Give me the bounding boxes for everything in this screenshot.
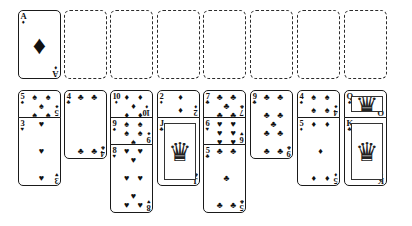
card-index-top-left-suit-icon: ♦ xyxy=(115,100,118,105)
tableau-card-col8-pos1[interactable]: Q♠Q♠♛ xyxy=(344,90,387,118)
card-index-top-left-suit-icon: ♣ xyxy=(160,127,164,132)
pip-heart-icon: ♥ xyxy=(131,156,136,165)
tableau-card-col5-pos2[interactable]: 6♥6♥♥♥♥♥♥♥ xyxy=(203,117,246,145)
tableau-card-col5-pos1[interactable]: 7♣7♣♣♣♣♣♣♣♣ xyxy=(203,90,246,118)
empty-foundation-slot-2[interactable] xyxy=(64,10,107,79)
pip-club-icon: ♣ xyxy=(230,201,236,210)
pip-club-icon: ♣ xyxy=(217,93,223,102)
card-index-bottom-right-suit-icon: ♠ xyxy=(55,104,58,109)
card-index-bottom-right: 9♣ xyxy=(287,145,291,158)
pip-heart-icon: ♥ xyxy=(131,192,136,201)
pip-heart-icon: ♥ xyxy=(124,147,129,156)
empty-foundation-slot-6[interactable] xyxy=(250,10,293,79)
tableau-card-col1-pos2[interactable]: 3♥3♥♥♥♥ xyxy=(18,117,61,186)
card-index-top-left-suit-icon: ♣ xyxy=(67,100,71,105)
tableau-card-col8-pos2[interactable]: K♣K♣♛ xyxy=(344,117,387,186)
card-index-top-left-suit-icon: ♥ xyxy=(113,154,117,159)
card-pip-field: ♣♣♣♣ xyxy=(74,93,101,156)
pip-heart-icon: ♥ xyxy=(124,174,129,183)
card-index-bottom-right: 5♠ xyxy=(55,104,59,117)
pip-heart-icon: ♥ xyxy=(39,120,44,129)
tableau-card-col4-pos1[interactable]: 2♦2♦♦♦ xyxy=(157,90,200,118)
tableau-card-col3-pos2[interactable]: 9♠9♠♠♠♠♠♠♠♠♠♠ xyxy=(110,117,153,145)
pip-club-icon: ♣ xyxy=(217,147,223,156)
pip-club-icon: ♣ xyxy=(277,93,283,102)
card-index-top-left-suit-icon: ♠ xyxy=(300,100,303,105)
card-index-top-left-suit-icon: ♣ xyxy=(206,154,210,159)
pip-diamond-icon: ♦ xyxy=(138,93,143,102)
card-index-top-left-suit-icon: ♦ xyxy=(300,127,303,132)
tableau-card-col3-pos3[interactable]: 8♥8♥♥♥♥♥♥♥♥♥ xyxy=(110,144,153,213)
pip-spade-icon: ♠ xyxy=(311,93,316,102)
pip-spade-icon: ♠ xyxy=(124,129,129,138)
pip-spade-icon: ♠ xyxy=(311,106,316,115)
pip-club-icon: ♣ xyxy=(264,129,270,138)
card-pip-field: ♦♦ xyxy=(167,93,194,115)
card-index-top-left: 3♥ xyxy=(21,119,25,132)
card-index-top-left-suit-icon: ♠ xyxy=(113,127,116,132)
empty-foundation-slot-3[interactable] xyxy=(110,10,153,79)
card-index-bottom-right-suit-icon: ♥ xyxy=(147,199,151,204)
empty-foundation-slot-4[interactable] xyxy=(157,10,200,79)
pip-club-icon: ♣ xyxy=(264,111,270,120)
pip-heart-icon: ♥ xyxy=(138,147,143,156)
pip-club-icon: ♣ xyxy=(271,120,277,129)
pip-club-icon: ♣ xyxy=(78,93,84,102)
card-index-top-left: 6♥ xyxy=(206,119,210,132)
tableau-card-col6-pos1[interactable]: 9♣9♣♣♣♣♣♣♣♣♣♣ xyxy=(250,90,293,159)
card-index-top-left: 5♣ xyxy=(206,146,210,159)
pip-diamond-icon: ♦ xyxy=(178,93,183,102)
card-pip-field: ♠♠♠♠ xyxy=(307,93,334,115)
pip-club-icon: ♣ xyxy=(224,174,230,183)
court-face-figure: ♛ xyxy=(165,124,195,179)
card-index-top-left-suit-icon: ♥ xyxy=(21,127,25,132)
card-index-bottom-right: 5♦ xyxy=(334,172,338,185)
card-index-top-left: 4♣ xyxy=(67,92,71,105)
card-index-bottom-right: 5♣ xyxy=(240,199,244,212)
card-index-top-left: 5♦ xyxy=(300,119,304,132)
card-index-bottom-right-suit-icon: ♣ xyxy=(101,145,105,150)
pip-diamond-icon: ♦ xyxy=(325,174,330,183)
card-pip-field: ♥♥♥♥♥♥♥♥ xyxy=(120,147,147,210)
pip-heart-icon: ♥ xyxy=(39,147,44,156)
pip-heart-icon: ♥ xyxy=(124,201,129,210)
card-index-top-left: 10♦ xyxy=(113,92,120,105)
card-index-bottom-right-suit-icon: ♠ xyxy=(147,131,150,136)
empty-foundation-slot-7[interactable] xyxy=(297,10,340,79)
tableau-card-col1-pos1[interactable]: 5♠5♠♠♠♠♠♠ xyxy=(18,90,61,118)
pip-club-icon: ♣ xyxy=(277,147,283,156)
card-index-bottom-right-suit-icon: ♣ xyxy=(240,104,244,109)
card-index-top-left-suit-icon: ♣ xyxy=(253,100,257,105)
tableau-card-col4-pos2[interactable]: J♣J♣♛ xyxy=(157,117,200,186)
pip-club-icon: ♣ xyxy=(230,147,236,156)
court-face-figure: ♛ xyxy=(352,124,382,179)
empty-foundation-slot-8[interactable] xyxy=(344,10,387,79)
pip-club-icon: ♣ xyxy=(230,93,236,102)
card-pip-field: ♠♠♠♠♠♠♠♠♠ xyxy=(120,120,147,142)
tableau-card-col2-pos1[interactable]: 4♣4♣♣♣♣♣ xyxy=(64,90,107,159)
card-pip-field: ♠♠♠♠♠ xyxy=(28,93,55,115)
foundation-card-1[interactable]: A♦A♦♦ xyxy=(18,10,61,79)
tableau-card-col3-pos1[interactable]: 10♦10♦♦♦♦♦♦♦♦♦♦♦ xyxy=(110,90,153,118)
card-index-bottom-right: 6♥ xyxy=(240,131,244,144)
card-index-bottom-right-suit-icon: ♦ xyxy=(334,172,337,177)
card-index-top-left: 9♣ xyxy=(253,92,257,105)
pip-diamond-icon: ♦ xyxy=(325,120,330,129)
pip-club-icon: ♣ xyxy=(277,111,283,120)
tableau-card-col5-pos3[interactable]: 5♣5♣♣♣♣♣♣ xyxy=(203,144,246,213)
card-index-top-left: 5♠ xyxy=(21,92,25,105)
pip-diamond-icon: ♦ xyxy=(178,106,183,115)
card-index-top-left: 8♥ xyxy=(113,146,117,159)
card-index-bottom-right-suit-icon: ♥ xyxy=(55,172,59,177)
court-card-portrait: ♛ xyxy=(164,123,196,180)
card-index-bottom-right-suit-icon: ♠ xyxy=(334,104,337,109)
card-index-bottom-right: 4♠ xyxy=(334,104,338,117)
tableau-card-col7-pos2[interactable]: 5♦5♦♦♦♦♦♦ xyxy=(297,117,340,186)
pip-heart-icon: ♥ xyxy=(138,201,143,210)
court-card-portrait: ♛ xyxy=(351,96,383,112)
pip-heart-icon: ♥ xyxy=(138,174,143,183)
tableau-card-col7-pos1[interactable]: 4♠4♠♠♠♠♠ xyxy=(297,90,340,118)
pip-club-icon: ♣ xyxy=(91,93,97,102)
empty-foundation-slot-5[interactable] xyxy=(203,10,246,79)
pip-club-icon: ♣ xyxy=(91,147,97,156)
